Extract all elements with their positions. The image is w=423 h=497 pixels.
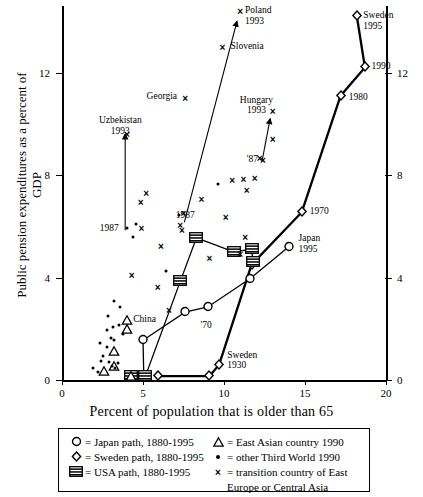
annotation-line: 1993 — [99, 126, 142, 137]
annotation-line: 1993 — [240, 105, 273, 116]
marker-usa-flag — [189, 229, 203, 247]
marker-dot — [107, 361, 110, 364]
y-axis-title: Public pension expenditures as a percent… — [14, 60, 44, 310]
marker-circle — [180, 303, 191, 321]
marker-cross: × — [237, 250, 243, 259]
y-tick-left — [56, 175, 63, 176]
marker-dot — [165, 270, 168, 273]
legend-label: = Sweden path, 1880-1995 — [85, 451, 204, 463]
legend: = Japan path, 1880-1995= Sweden path, 18… — [58, 428, 370, 492]
x-tick — [305, 380, 306, 385]
annotation-label: Georgia — [147, 91, 177, 102]
y-tick-label-right: 12 — [397, 67, 408, 78]
marker-dot — [116, 362, 119, 365]
annotation-line: 1987 — [176, 210, 195, 221]
marker-usa-flag — [173, 272, 187, 290]
annotation-line: 1993 — [245, 16, 271, 27]
marker-dot — [112, 326, 115, 329]
y-tick-label-left: 0 — [45, 375, 51, 386]
marker-cross: × — [223, 213, 229, 222]
marker-dot — [216, 183, 219, 186]
marker-circle — [283, 238, 294, 256]
marker-cross: × — [270, 135, 276, 144]
marker-dot — [99, 359, 102, 362]
marker-dot — [117, 323, 120, 326]
marker-circle — [202, 298, 213, 316]
marker-dot — [125, 226, 128, 229]
marker-circle — [138, 331, 149, 349]
annotation-label: Hungary1993 — [240, 95, 273, 116]
annotation-label: 1987 — [176, 210, 195, 221]
marker-cross: × — [179, 226, 185, 235]
x-tick-label: 0 — [59, 388, 65, 399]
legend-label: = Japan path, 1880-1995 — [85, 436, 194, 448]
marker-cross: × — [158, 241, 164, 250]
legend-symbol-usa-flag — [67, 465, 85, 479]
marker-dot — [105, 345, 108, 348]
marker-triangle — [125, 367, 136, 385]
annotation-line: '87 — [247, 154, 258, 165]
annotation-label: 1980 — [349, 92, 368, 103]
marker-cross: × — [237, 7, 243, 16]
annotation-label: Slovenia — [230, 41, 263, 52]
legend-label: Europe or Central Asia — [227, 481, 328, 493]
y-tick-right — [385, 73, 392, 74]
marker-dot — [112, 339, 115, 342]
annotation-line: Sweden — [227, 350, 257, 361]
y-tick-label-left: 8 — [45, 170, 51, 181]
marker-dot — [132, 235, 135, 238]
legend-item: = Japan path, 1880-1995 — [67, 435, 194, 449]
y-tick-label-right: 4 — [397, 272, 403, 283]
marker-cross: × — [129, 270, 135, 279]
x-tick-label: 15 — [300, 388, 311, 399]
annotation-label: '87 — [247, 154, 258, 165]
y-tick-left — [56, 278, 63, 279]
annotation-label: Poland1993 — [245, 5, 271, 26]
marker-diamond — [296, 203, 307, 221]
annotation-line: China — [133, 314, 156, 325]
x-tick-label: 20 — [381, 388, 392, 399]
y-tick-left — [56, 73, 63, 74]
marker-cross: × — [260, 155, 266, 164]
marker-dot — [134, 222, 137, 225]
annotation-line: 1995 — [363, 21, 393, 32]
annotation-label: Sweden1930 — [227, 350, 257, 371]
marker-cross: × — [166, 305, 172, 314]
marker-diamond — [152, 367, 163, 385]
marker-cross: × — [241, 174, 247, 183]
legend-symbol-diamond — [67, 450, 85, 464]
legend-symbol-cross: × — [209, 466, 227, 479]
legend-label: = East Asian country 1990 — [227, 436, 344, 448]
legend-symbol-circle — [67, 435, 85, 449]
marker-cross: × — [242, 232, 248, 241]
legend-label: = other Third World 1990 — [227, 451, 340, 463]
marker-dot — [114, 367, 117, 370]
marker-dot — [121, 332, 124, 335]
y-tick-right — [385, 175, 392, 176]
annotation-line: 1930 — [227, 360, 257, 371]
annotation-line: Poland — [245, 5, 271, 16]
marker-diamond — [214, 356, 225, 374]
marker-cross: × — [138, 223, 144, 232]
annotation-label: Uzbekistan1993 — [99, 115, 142, 136]
annotation-arrow — [184, 21, 237, 222]
x-tick — [224, 380, 225, 385]
marker-usa-flag — [138, 367, 152, 385]
annotation-line: Georgia — [147, 91, 177, 102]
annotation-line: 1995 — [299, 244, 321, 255]
marker-cross: × — [219, 42, 225, 51]
marker-dot — [112, 299, 115, 302]
legend-item: = USA path, 1880-1995 — [67, 465, 190, 479]
annotation-line: Japan — [299, 233, 321, 244]
legend-item: = East Asian country 1990 — [209, 435, 344, 449]
annotation-label: Sweden1995 — [363, 10, 393, 31]
annotation-line: 1990 — [371, 61, 390, 72]
series-line-diamond — [158, 16, 365, 376]
annotation-line: '70 — [201, 320, 212, 331]
annotation-line: Hungary — [240, 95, 273, 106]
marker-diamond — [359, 58, 370, 76]
legend-item: ×= transition country of East — [209, 465, 347, 479]
annotation-label: Japan1995 — [299, 233, 321, 254]
marker-cross: × — [252, 173, 258, 182]
marker-cross: × — [206, 254, 212, 263]
